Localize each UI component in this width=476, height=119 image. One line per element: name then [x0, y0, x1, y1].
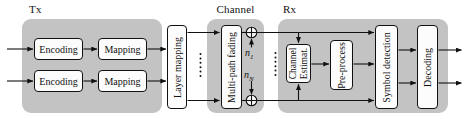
mimo-system-block-diagram: Tx Channel Rx: [0, 0, 476, 119]
encoding-block-bottom: Encoding: [34, 70, 83, 92]
symbol-detection-block: Symbol detection: [375, 25, 398, 109]
decoding-label: Decoding: [422, 48, 433, 87]
channel-estimator-label-line2: Estimat.: [299, 48, 310, 80]
multipath-fading-label: Multi-path fading: [226, 32, 237, 103]
channel-region-label: Channel: [207, 3, 264, 16]
adder-bottom-icon: [246, 95, 257, 106]
encoding-block-top: Encoding: [34, 38, 83, 60]
decoding-block: Decoding: [417, 25, 438, 109]
layer-mapping-label: Layer mapping: [172, 37, 183, 98]
noise-nN-label: nN: [244, 70, 254, 83]
channel-estimator-block: Channel Estimat.: [286, 44, 311, 83]
mapping-block-bottom: Mapping: [98, 70, 147, 92]
channel-estimator-label-line1: Channel: [288, 48, 299, 80]
layer-ellipsis-dots: [200, 53, 202, 77]
mapping-block-top: Mapping: [98, 38, 147, 60]
adder-top-icon: [246, 27, 257, 38]
preprocess-label: Pre-process: [336, 42, 347, 89]
channel-estimator-label: Channel Estimat.: [288, 48, 309, 80]
encoding-block-top-label: Encoding: [39, 44, 77, 55]
rx-ellipsis-dots: [275, 52, 277, 76]
mapping-block-bottom-label: Mapping: [104, 76, 140, 87]
layer-mapping-block: Layer mapping: [167, 25, 187, 109]
noise-n1-label: n1: [245, 48, 254, 61]
tx-region-label: Tx: [29, 3, 42, 16]
mapping-block-top-label: Mapping: [104, 44, 140, 55]
symbol-detection-label: Symbol detection: [381, 32, 392, 102]
preprocess-block: Pre-process: [330, 40, 353, 90]
multipath-fading-block: Multi-path fading: [221, 25, 242, 109]
rx-region-label: Rx: [283, 3, 296, 16]
encoding-block-bottom-label: Encoding: [39, 76, 77, 87]
